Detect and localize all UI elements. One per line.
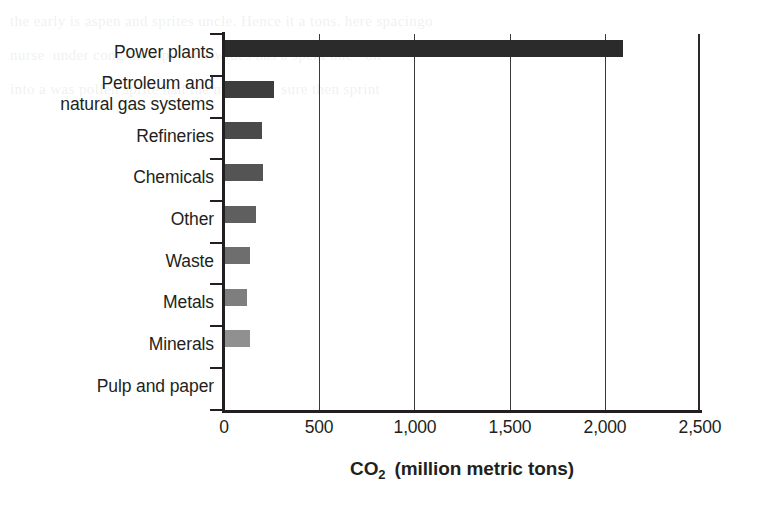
y-axis-category-labels: Power plants Petroleum and natural gas s…	[0, 0, 214, 420]
x-tick-label-0: 0	[219, 417, 229, 438]
gridline-1000	[414, 34, 415, 410]
category-label-power-plants: Power plants	[0, 42, 214, 63]
bar-petroleum-and-natural-gas-systems	[224, 81, 274, 98]
x-axis-title-subscript: 2	[378, 467, 385, 482]
x-tick-label-2000: 2,000	[584, 417, 627, 438]
x-tick-label-2500: 2,500	[679, 417, 722, 438]
plot-area	[224, 34, 700, 410]
bar-refineries	[224, 122, 262, 139]
x-axis-line	[222, 410, 702, 413]
gridline-2500	[698, 34, 700, 410]
category-label-waste: Waste	[0, 251, 214, 272]
gridline-500	[319, 34, 320, 410]
category-label-chemicals: Chemicals	[0, 167, 214, 188]
bar-other	[224, 206, 256, 223]
bar-waste	[224, 247, 250, 264]
bar-chemicals	[224, 164, 263, 181]
x-tick-label-1000: 1,000	[394, 417, 437, 438]
category-label-petroleum-and-natural-gas-systems: Petroleum and natural gas systems	[0, 73, 214, 115]
gridline-1500	[510, 34, 511, 410]
co2-emissions-bar-chart: Power plants Petroleum and natural gas s…	[0, 0, 761, 520]
category-label-metals: Metals	[0, 292, 214, 313]
x-axis-title-unit: (million metric tons)	[394, 458, 573, 479]
bar-power-plants	[224, 40, 623, 57]
category-label-minerals: Minerals	[0, 334, 214, 355]
x-tick-label-500: 500	[305, 417, 334, 438]
y-axis-line	[222, 32, 225, 412]
bar-metals	[224, 289, 247, 306]
gridline-2000	[605, 34, 606, 410]
x-axis-title: CO2(million metric tons)	[224, 458, 700, 482]
category-label-refineries: Refineries	[0, 126, 214, 147]
x-tick-label-1500: 1,500	[489, 417, 532, 438]
bar-minerals	[224, 330, 250, 347]
x-axis-title-main: CO	[350, 458, 378, 479]
category-label-pulp-and-paper: Pulp and paper	[0, 376, 214, 397]
category-label-other: Other	[0, 209, 214, 230]
